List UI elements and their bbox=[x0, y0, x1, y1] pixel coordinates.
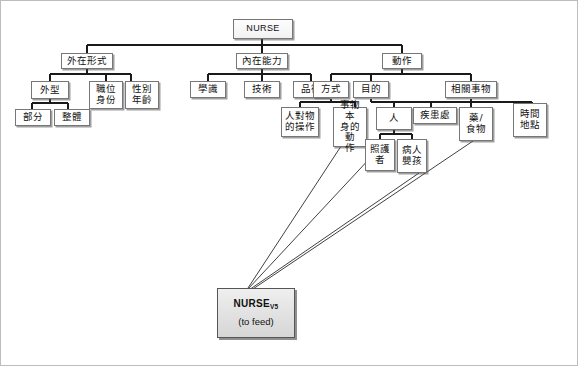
node-label-stack: 時間 地點 bbox=[520, 109, 540, 130]
node-label: 整體 bbox=[62, 112, 82, 122]
node-caregiver[interactable]: 照護 者 bbox=[365, 139, 395, 171]
node-label-line2: 的操作 bbox=[285, 122, 316, 133]
node-label: 目的 bbox=[361, 84, 381, 94]
node-label-line2: 嬰孩 bbox=[402, 156, 422, 167]
node-action[interactable]: 動作 bbox=[382, 53, 422, 69]
node-external-form[interactable]: 外在形式 bbox=[61, 53, 113, 69]
node-label: 內在能力 bbox=[242, 56, 283, 66]
node-label: 人 bbox=[389, 113, 399, 123]
node-part[interactable]: 部分 bbox=[15, 109, 51, 126]
node-related-things[interactable]: 相關事物 bbox=[445, 81, 497, 98]
node-skill[interactable]: 技術 bbox=[244, 81, 280, 98]
node-label-stack: 職位 身份 bbox=[96, 84, 116, 105]
node-label: 外在形式 bbox=[67, 56, 108, 66]
node-whole[interactable]: 整體 bbox=[54, 109, 90, 126]
node-label-stack: 事物本 身的動 作 bbox=[335, 100, 365, 153]
node-label-stack: 藥/ 食物 bbox=[466, 113, 486, 134]
diagram-figure: NURSE 外在形式 內在能力 動作 外型 職位 身份 性別 年齡 部分 整體 … bbox=[0, 0, 578, 366]
node-root-nurse[interactable]: NURSE bbox=[233, 19, 293, 39]
node-label: 疾患處 bbox=[420, 110, 451, 120]
node-label: 外型 bbox=[40, 85, 60, 95]
node-label-line3: 作 bbox=[345, 143, 355, 154]
node-label: 相關事物 bbox=[451, 84, 492, 94]
target-subscript: V5 bbox=[270, 303, 279, 310]
node-label-line2: 身的動 bbox=[335, 122, 365, 143]
node-gender-age[interactable]: 性別 年齡 bbox=[125, 81, 159, 109]
node-position-identity[interactable]: 職位 身份 bbox=[89, 81, 123, 109]
node-label-line1: 事物本 bbox=[335, 100, 365, 121]
node-label-line2: 食物 bbox=[466, 124, 486, 135]
node-label-stack: 病人 嬰孩 bbox=[402, 145, 422, 166]
node-label-stack: 性別 年齡 bbox=[132, 84, 152, 105]
node-label-line2: 者 bbox=[375, 155, 385, 166]
node-label-line2: 身份 bbox=[96, 95, 116, 106]
target-label-line2: (to feed) bbox=[238, 317, 273, 327]
node-purpose[interactable]: 目的 bbox=[353, 81, 389, 98]
node-label: 學識 bbox=[198, 84, 218, 94]
node-label: 方式 bbox=[321, 84, 341, 94]
node-medicine-food[interactable]: 藥/ 食物 bbox=[459, 107, 493, 141]
node-label-stack: 人對物 的操作 bbox=[285, 111, 316, 132]
node-person[interactable]: 人 bbox=[376, 107, 412, 130]
node-method[interactable]: 方式 bbox=[313, 81, 349, 98]
node-label: 部分 bbox=[23, 112, 43, 122]
node-patient-infant[interactable]: 病人 嬰孩 bbox=[397, 139, 427, 173]
node-label: 技術 bbox=[252, 84, 272, 94]
target-label-line1: NURSEV5 bbox=[233, 299, 278, 310]
node-target-nurse-v5[interactable]: NURSEV5 (to feed) bbox=[217, 288, 295, 338]
node-object-self-motion[interactable]: 事物本 身的動 作 bbox=[333, 107, 367, 147]
node-label: 動作 bbox=[392, 56, 412, 66]
node-disease-site[interactable]: 疾患處 bbox=[413, 107, 457, 124]
node-human-operates-object[interactable]: 人對物 的操作 bbox=[281, 107, 319, 137]
node-label-line2: 年齡 bbox=[132, 95, 152, 106]
node-label-line2: 地點 bbox=[520, 120, 540, 131]
node-internal-ability[interactable]: 內在能力 bbox=[236, 53, 288, 69]
node-knowledge[interactable]: 學識 bbox=[190, 81, 226, 98]
target-word: NURSE bbox=[233, 298, 270, 309]
node-appearance[interactable]: 外型 bbox=[31, 81, 69, 99]
node-label: NURSE bbox=[246, 24, 280, 34]
node-label-stack: 照護 者 bbox=[370, 144, 390, 165]
node-time-place[interactable]: 時間 地點 bbox=[513, 103, 547, 137]
